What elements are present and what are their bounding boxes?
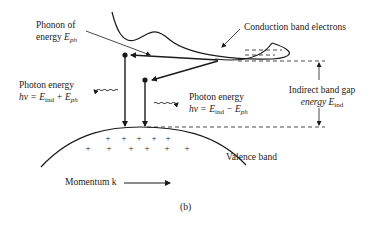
transition-arrow-lower — [152, 61, 218, 80]
transition-arrow-upper — [131, 55, 218, 60]
svg-text:+: + — [165, 133, 170, 143]
figure-caption: (b) — [180, 202, 191, 213]
svg-text:+: + — [106, 143, 111, 153]
phonon-label: Phonon of energy Eph — [36, 19, 77, 43]
holes: + + + + + + + + + + + — [85, 133, 189, 153]
valence-band-label: Valence band — [226, 152, 277, 163]
phonon-pointer — [86, 31, 150, 55]
svg-text:+: + — [136, 133, 141, 143]
band-gap-label: Indirect band gap energy Eind — [282, 84, 362, 108]
phonon-label-line2: energy — [36, 32, 64, 42]
svg-text:+: + — [151, 133, 156, 143]
svg-text:+: + — [184, 143, 189, 153]
photon-wave-right — [154, 102, 178, 103]
svg-text:+: + — [164, 143, 169, 153]
svg-text:+: + — [105, 133, 110, 143]
conduction-band-label: Conduction band electrons — [244, 22, 346, 33]
conduction-pointer — [222, 29, 240, 47]
photon-energy-diff-label: Photon energy hν = Eind − Eph — [189, 91, 248, 115]
momentum-label: Momentum k — [65, 177, 116, 188]
svg-text:+: + — [144, 143, 149, 153]
svg-text:+: + — [85, 143, 90, 153]
photon-energy-sum-label: Photon energy hν = Eind + Eph — [19, 79, 78, 103]
phonon-label-line1: Phonon of — [36, 19, 77, 31]
svg-text:+: + — [128, 143, 133, 153]
photon-wave-left — [118, 89, 139, 91]
svg-text:+: + — [121, 133, 126, 143]
